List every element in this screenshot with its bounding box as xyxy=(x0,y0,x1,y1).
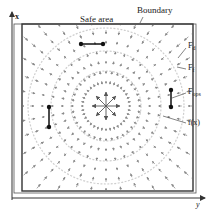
field-arrow xyxy=(117,42,118,45)
field-arrow xyxy=(151,132,154,134)
field-arrow xyxy=(117,125,119,128)
field-arrow xyxy=(157,96,160,97)
field-arrow xyxy=(169,159,172,162)
field-arrow xyxy=(66,211,68,214)
field-arrow xyxy=(142,168,144,171)
field-arrow xyxy=(146,153,148,155)
field-arrow xyxy=(203,47,208,50)
field-arrow xyxy=(73,15,75,20)
field-arrow xyxy=(124,155,125,158)
field-arrow xyxy=(16,178,21,182)
field-arrow xyxy=(15,73,20,75)
field-arrow xyxy=(73,160,75,163)
field-arrow xyxy=(194,157,199,160)
field-arrow xyxy=(84,94,87,96)
field-arrow xyxy=(127,45,128,48)
field-arrow xyxy=(66,0,68,1)
field-arrow xyxy=(165,176,168,180)
fd-label: Fd xyxy=(188,42,195,51)
field-arrow xyxy=(87,0,88,5)
fx-label: f(x) xyxy=(188,119,200,127)
field-arrow xyxy=(64,153,66,155)
field-arrow xyxy=(169,51,172,54)
field-arrow xyxy=(120,145,121,148)
field-arrow xyxy=(67,127,70,129)
fd-leader xyxy=(178,48,186,58)
field-arrow xyxy=(134,25,135,29)
field-arrow xyxy=(98,62,99,65)
field-arrow xyxy=(151,79,154,81)
boundary-label: Boundary xyxy=(137,6,173,15)
field-arrow xyxy=(128,110,131,111)
field-arrow xyxy=(136,117,139,118)
field-arrow xyxy=(73,94,76,95)
field-arrow xyxy=(52,96,55,97)
field-arrow xyxy=(72,133,74,135)
field-arrow xyxy=(90,87,92,89)
field-arrow xyxy=(136,94,139,95)
field-arrow xyxy=(40,142,43,144)
field-arrow xyxy=(93,31,94,35)
field-arrow xyxy=(114,83,115,86)
ff-sub: f xyxy=(192,67,194,73)
field-arrow xyxy=(138,112,141,113)
fx-leader xyxy=(163,116,186,123)
field-arrow xyxy=(114,127,115,130)
field-arrow xyxy=(79,58,81,61)
field-arrow xyxy=(113,62,114,65)
field-arrow xyxy=(122,197,123,202)
field-arrow xyxy=(42,117,45,118)
field-arrow xyxy=(127,131,129,133)
field-arrow xyxy=(160,73,163,75)
field-arrow xyxy=(131,35,132,38)
obstacle-vertical xyxy=(169,88,173,109)
field-arrow xyxy=(54,124,57,125)
field-arrow xyxy=(174,131,177,132)
field-arrow xyxy=(134,89,137,91)
field-arrow xyxy=(64,91,67,92)
field-arrow xyxy=(37,184,41,188)
field-arrow xyxy=(110,81,111,84)
field-arrow xyxy=(102,128,103,131)
field-arrow xyxy=(177,147,181,149)
field-arrow xyxy=(123,90,125,92)
center-arrow xyxy=(106,96,116,106)
field-arrow xyxy=(76,25,77,29)
field-arrow xyxy=(160,137,163,139)
field-arrow xyxy=(125,94,128,96)
field-arrow xyxy=(117,73,118,76)
field-arrow xyxy=(139,146,141,148)
field-arrow xyxy=(87,90,89,92)
field-arrow xyxy=(68,168,70,171)
field-arrow xyxy=(141,202,143,207)
field-arrow xyxy=(97,127,98,130)
field-arrow xyxy=(167,95,170,96)
field-arrow xyxy=(56,64,58,66)
field-arrow xyxy=(93,177,94,181)
field-arrow xyxy=(146,71,148,73)
field-arrow xyxy=(79,84,81,86)
field-arrow xyxy=(64,139,66,141)
field-arrow xyxy=(71,146,73,148)
field-arrow xyxy=(133,138,135,140)
field-arrow xyxy=(52,115,55,116)
field-arrow xyxy=(211,144,215,146)
field-arrow xyxy=(58,186,60,190)
field-arrow xyxy=(69,5,71,10)
field-arrow xyxy=(42,95,45,96)
field-arrow xyxy=(159,169,162,172)
field-arrow xyxy=(35,80,38,81)
field-arrow xyxy=(11,89,16,90)
field-arrow xyxy=(134,183,135,187)
field-arrow xyxy=(164,84,167,85)
field-arrow xyxy=(64,56,66,58)
field-arrow xyxy=(73,50,75,53)
field-arrow xyxy=(168,68,171,70)
field-arrow xyxy=(172,184,176,188)
field-arrow xyxy=(79,151,81,154)
field-arrow xyxy=(30,192,34,197)
field-arrow xyxy=(87,155,88,158)
y-axis-label: y xyxy=(196,201,200,209)
field-arrow xyxy=(147,98,150,99)
field-arrow xyxy=(91,145,92,148)
